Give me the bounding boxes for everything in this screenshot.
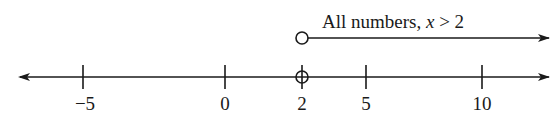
solution-ray: All numbers, x > 2 [296, 11, 549, 44]
tick-label-5: 5 [361, 93, 371, 114]
tick-label-2: 2 [297, 93, 307, 114]
open-circle-icon [296, 32, 308, 44]
tick-label-neg5: −5 [75, 93, 95, 114]
number-line-axis: −5 0 2 5 10 [18, 65, 549, 114]
ray-label: All numbers, x > 2 [322, 11, 464, 32]
tick-label-10: 10 [473, 93, 492, 114]
number-line-diagram: All numbers, x > 2 −5 0 2 5 10 [0, 0, 555, 131]
tick-label-0: 0 [220, 93, 230, 114]
